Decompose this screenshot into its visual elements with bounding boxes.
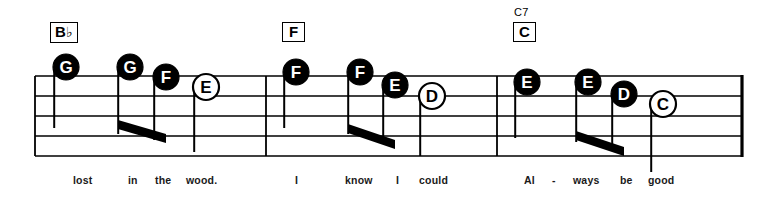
noteheads: GGFEFFEDEEDC bbox=[53, 54, 676, 117]
lyric-word: lost bbox=[73, 174, 92, 186]
note-letter-g: G bbox=[59, 58, 72, 77]
note-letter-e: E bbox=[200, 78, 211, 97]
lyric-word: Al bbox=[524, 174, 535, 186]
note-letter-g: G bbox=[123, 58, 136, 77]
beam bbox=[118, 120, 166, 143]
lyric-word: ways bbox=[573, 174, 600, 186]
note-letter-f: F bbox=[355, 63, 365, 82]
note-letter-c: C bbox=[657, 95, 669, 114]
note-letter-f: F bbox=[291, 63, 301, 82]
lyric-word: in bbox=[128, 174, 138, 186]
lyric-word: I bbox=[396, 174, 399, 186]
note-letter-e: E bbox=[521, 73, 532, 92]
lyric-word: be bbox=[620, 174, 633, 186]
lyric-word: wood. bbox=[186, 174, 217, 186]
lyric-word: I bbox=[295, 174, 298, 186]
lyric-word: - bbox=[552, 174, 556, 186]
note-letter-d: D bbox=[426, 87, 438, 106]
beam bbox=[576, 131, 624, 156]
note-letter-f: F bbox=[161, 68, 171, 87]
lyric-word: could bbox=[419, 174, 448, 186]
sheet-music-page: B♭ F C7 C GGFEFFEDEEDC lostinthewood.Ikn… bbox=[0, 0, 773, 200]
lyric-word: the bbox=[155, 174, 171, 186]
lyric-word: good bbox=[648, 174, 674, 186]
lyric-word: know bbox=[345, 174, 373, 186]
music-staff: GGFEFFEDEEDC bbox=[0, 0, 773, 200]
note-letter-d: D bbox=[618, 85, 630, 104]
note-letter-e: E bbox=[582, 73, 593, 92]
note-letter-e: E bbox=[389, 76, 400, 95]
